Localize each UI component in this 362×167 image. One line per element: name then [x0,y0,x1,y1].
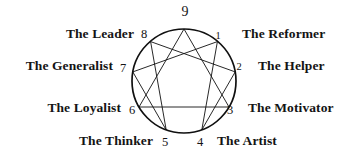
type-label-helper: The Helper [258,59,325,73]
point-number-3: 3 [224,104,236,117]
type-label-reformer: The Reformer [242,27,325,41]
type-label-thinker: The Thinker [79,134,153,148]
point-number-4: 4 [194,136,206,149]
point-number-8: 8 [138,28,150,41]
type-label-loyalist: The Loyalist [47,101,121,115]
type-label-generalist: The Generalist [26,59,113,73]
type-label-leader: The Leader [66,27,134,41]
point-number-9: 9 [177,5,193,19]
enneagram-circle [132,29,236,133]
inner-hexad-1-4-2-8-5-7 [133,42,235,130]
point-number-2: 2 [233,62,245,73]
point-number-1: 1 [212,31,224,42]
point-number-7: 7 [117,62,129,75]
point-number-5: 5 [159,136,171,149]
enneagram-diagram: 9 1 2 3 4 5 6 7 8 The Reformer The Helpe… [0,0,362,167]
type-label-artist: The Artist [217,134,277,148]
type-label-motivator: The Motivator [248,101,334,115]
point-number-6: 6 [126,104,138,117]
